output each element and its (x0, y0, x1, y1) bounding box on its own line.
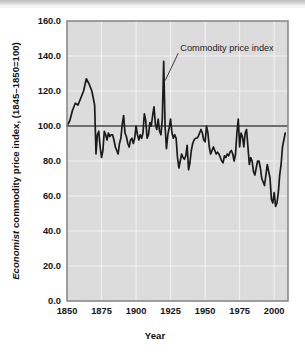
y-tick-label-80.0: 80.0 (43, 156, 61, 166)
x-tick-label-1925: 1925 (160, 306, 181, 316)
y-tick-label-0.0: 0.0 (48, 296, 61, 306)
y-axis-title-rest: commodity price index, (1845–1850=100) (10, 42, 21, 231)
x-axis-title: Year (145, 330, 166, 341)
y-axis-title: Economist commodity price index, (1845–1… (10, 42, 21, 280)
x-tick-label-1875: 1875 (91, 306, 112, 316)
x-tick-label-1950: 1950 (195, 306, 216, 316)
y-tick-label-20.0: 20.0 (43, 261, 61, 271)
x-tick-label-2000: 2000 (264, 306, 285, 316)
x-tick-label-1975: 1975 (229, 306, 250, 316)
commodity-price-index-figure: 0.020.040.060.080.0100.0120.0140.0160.0 … (0, 0, 305, 354)
svg-text:Economist commodity price inde: Economist commodity price index, (1845–1… (10, 42, 21, 280)
annotation-commodity-price-index: Commodity price index (180, 43, 274, 53)
x-tick-label-1850: 1850 (57, 306, 78, 316)
y-tick-label-160.0: 160.0 (38, 16, 61, 26)
y-tick-label-140.0: 140.0 (38, 51, 61, 61)
y-axis-title-italic: Economist (10, 230, 21, 280)
y-tick-label-100.0: 100.0 (38, 121, 61, 131)
line-chart: 0.020.040.060.080.0100.0120.0140.0160.0 … (0, 0, 305, 354)
x-tick-label-1900: 1900 (126, 306, 147, 316)
y-tick-label-120.0: 120.0 (38, 86, 61, 96)
y-tick-label-60.0: 60.0 (43, 191, 61, 201)
y-tick-label-40.0: 40.0 (43, 226, 61, 236)
scan-artifact-bar-secondary (0, 5, 305, 8)
